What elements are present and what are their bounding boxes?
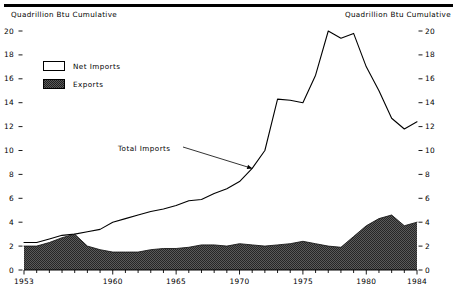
y-axis-right-tick-label: 16 <box>425 74 453 83</box>
y-axis-left-tick-label: 6 <box>0 194 14 203</box>
plot-area <box>0 0 457 295</box>
y-axis-right-tick-label: 0 <box>425 266 453 275</box>
y-axis-left-tick-label: 10 <box>0 146 14 155</box>
chart-figure: Quadrillion Btu Cumulative Quadrillion B… <box>0 0 457 295</box>
y-axis-left-tick-label: 14 <box>0 98 14 107</box>
y-axis-left-tick-label: 16 <box>0 74 14 83</box>
x-axis-tick-label: 1953 <box>7 277 41 286</box>
y-axis-left-tick-label: 4 <box>0 218 14 227</box>
left-axis-title: Quadrillion Btu Cumulative <box>11 11 117 20</box>
annotation-total-imports: Total Imports <box>118 144 171 153</box>
header-rule <box>4 4 453 7</box>
legend-swatch-exports <box>43 79 65 89</box>
legend-swatch-net-imports <box>43 61 65 71</box>
y-axis-left-tick-label: 2 <box>0 242 14 251</box>
legend-label-net-imports: Net Imports <box>73 62 120 71</box>
y-axis-left-tick-label: 12 <box>0 122 14 131</box>
y-axis-right-tick-label: 6 <box>425 194 453 203</box>
x-axis-tick-label: 1970 <box>223 277 257 286</box>
y-axis-right-tick-label: 10 <box>425 146 453 155</box>
annotation-leader-line <box>183 147 252 168</box>
y-axis-left-tick-label: 20 <box>0 27 14 36</box>
y-axis-right-tick-label: 8 <box>425 170 453 179</box>
y-axis-left-ticks <box>19 31 23 270</box>
y-axis-left-tick-label: 8 <box>0 170 14 179</box>
y-axis-left-tick-label: 18 <box>0 50 14 59</box>
y-axis-right-ticks <box>419 31 423 270</box>
y-axis-right-tick-label: 14 <box>425 98 453 107</box>
annotation-arrowhead <box>247 165 252 169</box>
y-axis-right-tick-label: 18 <box>425 50 453 59</box>
x-minor-ticks <box>24 270 417 275</box>
x-axis-tick-label: 1965 <box>159 277 193 286</box>
y-axis-right-tick-label: 12 <box>425 122 453 131</box>
y-axis-right-tick-label: 20 <box>425 27 453 36</box>
y-axis-left-tick-label: 0 <box>0 266 14 275</box>
legend-swatch-exports-pattern <box>44 80 64 88</box>
y-axis-right-tick-label: 2 <box>425 242 453 251</box>
x-axis-tick-label: 1984 <box>400 277 434 286</box>
right-axis-title: Quadrillion Btu Cumulative <box>345 11 451 20</box>
x-axis-tick-label: 1960 <box>96 277 130 286</box>
legend-label-exports: Exports <box>73 80 103 89</box>
x-axis-tick-label: 1980 <box>349 277 383 286</box>
x-axis-tick-label: 1975 <box>286 277 320 286</box>
y-axis-right-tick-label: 4 <box>425 218 453 227</box>
